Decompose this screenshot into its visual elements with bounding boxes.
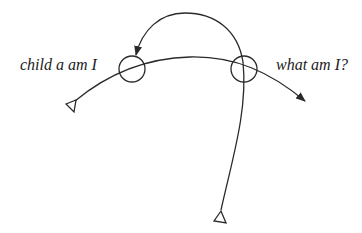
diagram-svg — [0, 0, 362, 233]
vertical-line — [221, 62, 244, 210]
left-triangle-icon — [66, 100, 76, 112]
bottom-triangle-icon — [214, 211, 226, 223]
top-arc — [136, 13, 243, 62]
label-what-am-i: what am I? — [276, 57, 348, 73]
diagram-canvas: child a am I what am I? — [0, 0, 362, 233]
label-child-a-am-i: child a am I — [20, 57, 97, 73]
main-curve — [75, 57, 305, 101]
left-circle — [119, 56, 145, 82]
